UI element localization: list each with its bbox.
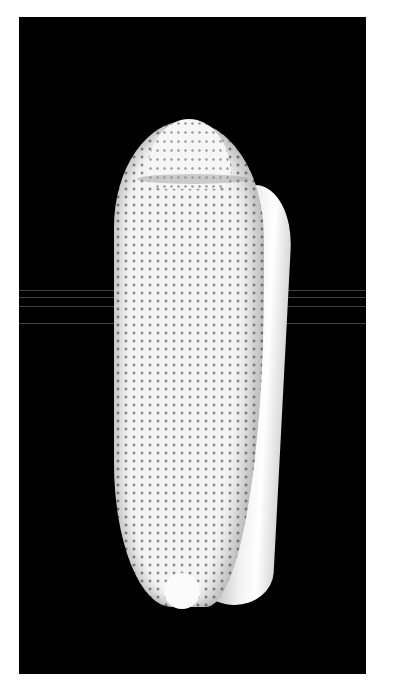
specimen-photo: [19, 17, 366, 674]
shell-anterior-tip: [164, 573, 200, 609]
shell-suture: [137, 174, 249, 184]
shell-body-whorl: [114, 121, 264, 607]
